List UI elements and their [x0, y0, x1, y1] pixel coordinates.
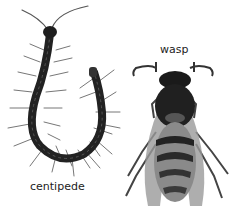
centipede-icon: [8, 6, 120, 176]
wasp-icon: [126, 62, 228, 206]
insects-drawing: [0, 0, 240, 210]
wasp-label: wasp: [160, 43, 188, 56]
insect-illustration: centipede wasp: [0, 0, 240, 210]
centipede-label: centipede: [30, 180, 85, 193]
